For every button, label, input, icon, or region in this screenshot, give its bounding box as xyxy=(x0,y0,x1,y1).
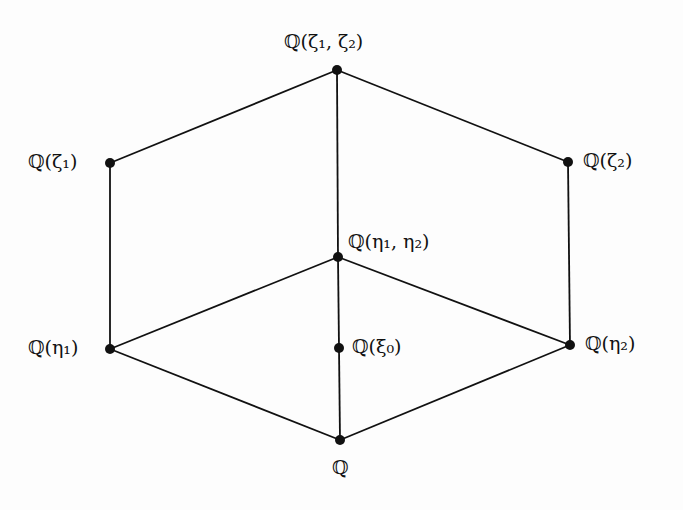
node-zeta1 xyxy=(105,158,115,168)
edge-eta12-eta1 xyxy=(110,257,338,349)
edge-zeta2-eta2 xyxy=(568,162,570,345)
edge-eta2-Q xyxy=(340,345,570,440)
node-eta12 xyxy=(333,252,343,262)
node-Q xyxy=(335,435,345,445)
label-top: ℚ(ζ₁, ζ₂) xyxy=(284,32,363,51)
node-xi0 xyxy=(334,343,344,353)
label-eta1: ℚ(η₁) xyxy=(28,338,78,357)
edge-top-zeta1 xyxy=(110,70,337,163)
label-zeta1: ℚ(ζ₁) xyxy=(28,152,77,171)
edge-eta12-xi0 xyxy=(338,257,339,348)
edge-eta1-Q xyxy=(110,349,340,440)
edge-eta12-eta2 xyxy=(338,257,570,345)
edge-xi0-Q xyxy=(339,348,340,440)
label-eta12: ℚ(η₁, η₂) xyxy=(348,232,429,251)
node-top xyxy=(332,65,342,75)
node-eta2 xyxy=(565,340,575,350)
field-lattice-diagram: ℚ(ζ₁, ζ₂)ℚ(ζ₁)ℚ(ζ₂)ℚ(η₁, η₂)ℚ(η₁)ℚ(ξ₀)ℚ(… xyxy=(0,0,683,510)
lattice-graph xyxy=(0,0,683,510)
node-zeta2 xyxy=(563,157,573,167)
label-xi0: ℚ(ξ₀) xyxy=(352,337,401,356)
edge-top-eta12 xyxy=(337,70,338,257)
edge-top-zeta2 xyxy=(337,70,568,162)
node-eta1 xyxy=(105,344,115,354)
label-zeta2: ℚ(ζ₂) xyxy=(583,151,632,170)
label-eta2: ℚ(η₂) xyxy=(585,334,635,353)
label-Q: ℚ xyxy=(332,458,349,477)
